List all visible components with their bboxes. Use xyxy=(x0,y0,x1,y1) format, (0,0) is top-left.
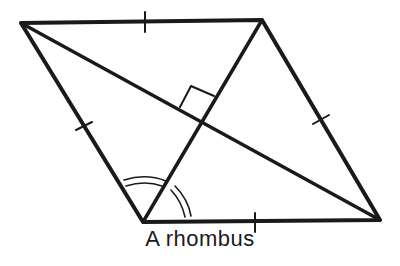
angle-arc-inner-2 xyxy=(171,190,185,217)
diagonal-short xyxy=(143,20,262,222)
figure-caption: A rhombus xyxy=(0,226,400,252)
angle-arc-inner-1 xyxy=(126,183,162,186)
angle-arc-outer-1 xyxy=(124,177,166,181)
right-angle-marker xyxy=(180,86,214,107)
